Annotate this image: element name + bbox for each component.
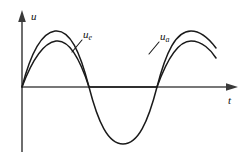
voltage-axis-label: u bbox=[31, 11, 37, 22]
curve-label-ua-subscript: a bbox=[166, 35, 170, 44]
curve-label-ua: ua bbox=[160, 31, 170, 42]
waveform-plot-svg bbox=[0, 0, 248, 160]
curve-label-ue: ue bbox=[83, 29, 92, 40]
curve-ue-rectified bbox=[22, 41, 216, 87]
curve-label-ua-base: u bbox=[160, 30, 166, 42]
time-axis-arrowhead bbox=[226, 83, 238, 91]
voltage-axis-arrowhead bbox=[18, 10, 26, 22]
time-axis-label: t bbox=[228, 95, 231, 106]
curve-label-ue-subscript: e bbox=[89, 33, 93, 42]
waveform-figure: u t ue ua bbox=[0, 0, 248, 160]
curve-label-ue-base: u bbox=[83, 28, 89, 40]
ua-label-leader-line bbox=[149, 42, 159, 54]
